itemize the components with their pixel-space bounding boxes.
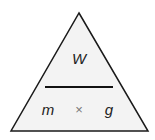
formula-triangle — [0, 0, 155, 140]
mass-symbol: m — [42, 102, 55, 117]
gravity-symbol: g — [105, 102, 113, 117]
weight-symbol: W — [72, 51, 86, 66]
multiply-operator: × — [75, 103, 83, 116]
